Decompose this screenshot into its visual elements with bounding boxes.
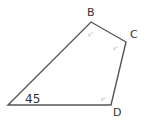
angle-label-a: 45 [25,92,40,106]
vertex-label-d: D [113,106,121,119]
angle-label-c: x° [112,45,119,51]
quadrilateral-diagram: B C D 45 y° x° z° [0,0,148,120]
angle-label-d: z° [100,96,107,102]
vertex-label-b: B [87,6,95,19]
angle-label-b: y° [87,31,94,38]
vertex-label-c: C [130,28,138,41]
